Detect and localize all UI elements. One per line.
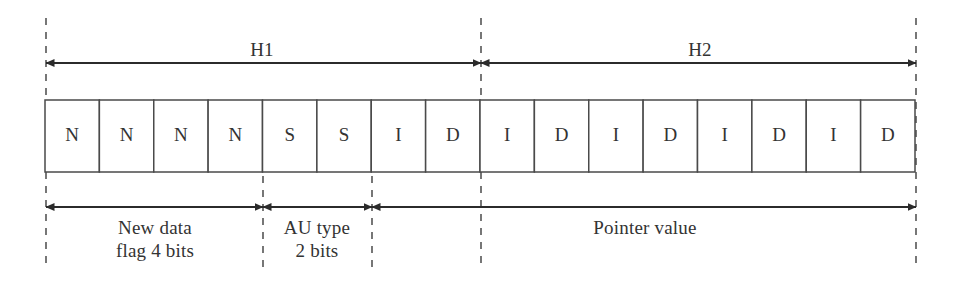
span-label-au-type: AU type 2 bits [284, 216, 350, 262]
span-label-h2: H2 [688, 38, 712, 61]
bit-cell-label: D [555, 124, 569, 145]
bit-cell-row: NNNNSSIDIDIDIDID [45, 100, 915, 172]
bit-cell-label: N [120, 124, 134, 145]
bit-cell-label: S [339, 124, 350, 145]
bit-cell-label: D [881, 124, 895, 145]
span-label-pointer-value: Pointer value [593, 216, 696, 239]
bit-field-diagram: NNNNSSIDIDIDIDID H1H2New data flag 4 bit… [0, 0, 954, 282]
bit-cell-label: D [446, 124, 460, 145]
bit-cell-label: I [830, 124, 836, 145]
bit-cell-label: I [395, 124, 401, 145]
bit-cell-label: I [504, 124, 510, 145]
bit-cell-label: N [65, 124, 79, 145]
bit-cell-label: S [284, 124, 295, 145]
bit-cell-label: N [228, 124, 242, 145]
span-label-new-data-flag: New data flag 4 bits [116, 216, 194, 262]
span-label-h1: H1 [250, 38, 274, 61]
bit-cell-label: N [174, 124, 188, 145]
bit-cell-label: I [613, 124, 619, 145]
bit-cell-label: D [663, 124, 677, 145]
bit-cell-label: D [772, 124, 786, 145]
bit-cell-label: I [722, 124, 728, 145]
